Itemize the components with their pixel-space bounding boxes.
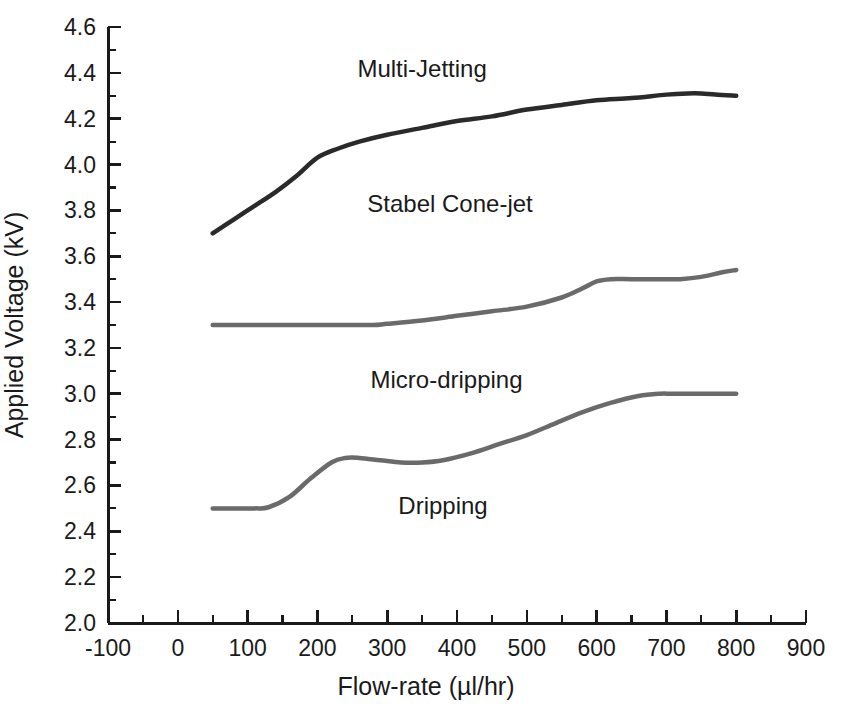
series-curves bbox=[213, 93, 737, 508]
y-tick-label: 4.0 bbox=[0, 151, 96, 178]
y-tick-label: 4.6 bbox=[0, 14, 96, 41]
region-label-micro-dripping: Micro-dripping bbox=[370, 366, 522, 394]
y-tick-label: 2.0 bbox=[0, 610, 96, 637]
region-label-dripping: Dripping bbox=[398, 492, 487, 520]
x-tick-label: 400 bbox=[438, 635, 476, 662]
region-label-stabel-cone-jet: Stabel Cone-jet bbox=[367, 190, 532, 218]
plot-area bbox=[0, 0, 852, 720]
x-tick-label: 900 bbox=[787, 635, 825, 662]
x-tick-label: 100 bbox=[228, 635, 266, 662]
y-tick-label: 2.2 bbox=[0, 564, 96, 591]
x-tick-label: 700 bbox=[647, 635, 685, 662]
x-tick-label: 500 bbox=[508, 635, 546, 662]
x-tick-label: 800 bbox=[717, 635, 755, 662]
y-tick-label: 2.4 bbox=[0, 518, 96, 545]
x-tick-label: -100 bbox=[85, 635, 131, 662]
series-curve-2 bbox=[213, 394, 737, 509]
chart-figure: 2.02.22.42.62.83.03.23.43.63.84.04.24.44… bbox=[0, 0, 852, 720]
y-tick-label: 4.4 bbox=[0, 59, 96, 86]
x-tick-label: 200 bbox=[298, 635, 336, 662]
region-label-multi-jetting: Multi-Jetting bbox=[357, 55, 486, 83]
x-tick-label: 300 bbox=[368, 635, 406, 662]
y-tick-label: 2.6 bbox=[0, 472, 96, 499]
x-tick-label: 600 bbox=[577, 635, 615, 662]
series-curve-1 bbox=[213, 270, 737, 325]
x-axis-title: Flow-rate (µl/hr) bbox=[338, 672, 515, 701]
y-tick-label: 4.2 bbox=[0, 105, 96, 132]
x-tick-label: 0 bbox=[171, 635, 184, 662]
y-axis-title: Applied Voltage (kV) bbox=[0, 212, 29, 439]
